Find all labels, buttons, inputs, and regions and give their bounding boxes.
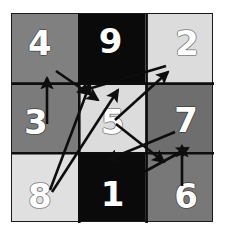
grid-cell-r1c2: 9: [79, 14, 146, 83]
grid-cell-r2c2: 5: [79, 83, 146, 152]
cell-label-4: 4: [28, 26, 52, 60]
grid-frame: 4 9 2 3 5 7 8 1 6: [11, 13, 213, 222]
cell-label-2: 2: [175, 26, 199, 60]
grid-cell-r3c2: 1: [79, 152, 146, 221]
grid-cells: 4 9 2 3 5 7 8 1 6: [12, 14, 212, 221]
cell-label-7: 7: [174, 103, 198, 137]
cell-label-3: 3: [24, 105, 48, 139]
grid-cell-r2c1: 3: [12, 83, 79, 152]
figure-canvas: 4 9 2 3 5 7 8 1 6: [0, 0, 226, 233]
cell-label-9: 9: [99, 24, 123, 58]
cell-label-6: 6: [174, 179, 198, 213]
grid-cell-r1c3: 2: [145, 14, 212, 83]
grid-cell-r2c3: 7: [145, 83, 212, 152]
grid-cell-r3c3: 6: [145, 152, 212, 221]
cell-label-8: 8: [28, 179, 52, 213]
cell-label-5: 5: [101, 105, 125, 139]
grid-cell-r1c1: 4: [12, 14, 79, 83]
grid-cell-r3c1: 8: [12, 152, 79, 221]
cell-label-1: 1: [101, 177, 125, 211]
